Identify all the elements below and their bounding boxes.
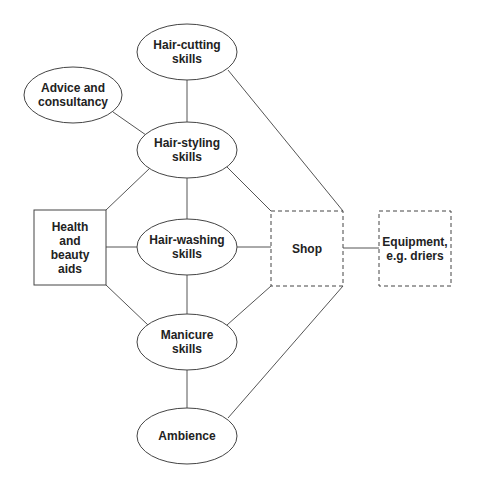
node-hair-washing-label: Hair-washing skills	[137, 219, 237, 275]
node-shop-label: Shop	[271, 211, 343, 286]
edge-ambience-shop	[228, 286, 343, 418]
node-equipment-label: Equipment, e.g. driers	[379, 211, 451, 286]
node-hair-cutting-label: Hair-cutting skills	[137, 24, 237, 80]
node-ambience-label: Ambience	[137, 408, 237, 464]
node-hair-styling-label: Hair-styling skills	[137, 122, 237, 178]
node-health-label: Health and beauty aids	[34, 210, 106, 285]
edge-cutting-shop	[228, 70, 343, 211]
node-manicure-label: Manicure skills	[137, 314, 237, 370]
node-advice-label: Advice and consultancy	[24, 67, 122, 123]
